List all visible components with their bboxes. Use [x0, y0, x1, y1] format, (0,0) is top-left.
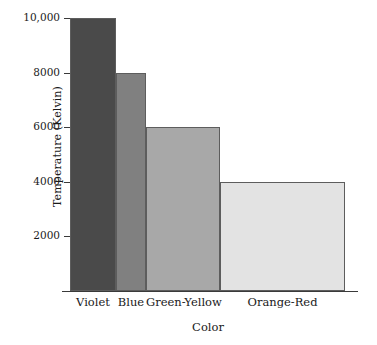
x-axis-title: Color — [69, 320, 347, 334]
bar-blue — [116, 73, 146, 291]
bar-green-yellow — [146, 127, 220, 291]
y-axis-tick-label: 2000 — [33, 230, 60, 241]
y-axis-tick-label: 8000 — [33, 67, 60, 78]
x-axis-spine — [62, 291, 358, 292]
bar-violet — [70, 18, 116, 291]
y-axis-tick-label: 10,000 — [23, 12, 60, 23]
x-tick-label-blue: Blue — [116, 295, 146, 309]
x-tick-label-green-yellow: Green-Yellow — [146, 295, 220, 309]
bar-orange-red — [220, 182, 345, 291]
y-axis-tick-label: 6000 — [33, 121, 60, 132]
y-axis-tick-label: 4000 — [33, 176, 60, 187]
x-tick-label-violet: Violet — [70, 295, 116, 309]
bars-group — [70, 18, 347, 291]
x-tick-label-orange-red: Orange-Red — [220, 295, 345, 309]
bar-chart-figure: Temperature (Kelvin) 200040006000800010,… — [0, 0, 377, 345]
